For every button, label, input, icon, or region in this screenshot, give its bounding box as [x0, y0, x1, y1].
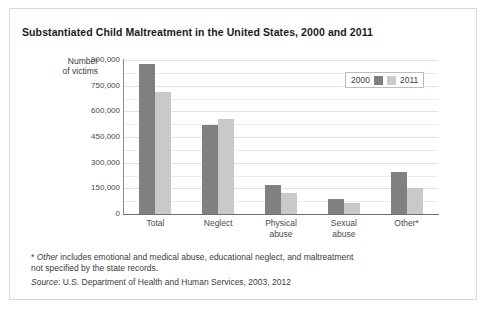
y-tick-label: 150,000 — [64, 183, 120, 192]
bar — [391, 172, 407, 214]
x-tick-label-line1: Physical — [251, 218, 311, 229]
x-tick-label: Sexualabuse — [314, 218, 374, 239]
gridline-major — [124, 60, 438, 61]
legend-swatch-2000 — [374, 76, 383, 85]
chart-legend: 2000 2011 — [345, 72, 424, 88]
x-tick-label: Neglect — [188, 218, 248, 229]
bar — [155, 92, 171, 214]
bar — [265, 185, 281, 214]
legend-label-2000: 2000 — [351, 75, 370, 85]
x-tick-label-line1: Total — [125, 218, 185, 229]
source-line: Source: U.S. Department of Health and Hu… — [31, 277, 291, 287]
footnote-marker: * — [31, 252, 34, 262]
footnote-italic-word: Other — [37, 252, 58, 262]
x-tick-label-line1: Neglect — [188, 218, 248, 229]
legend-label-2011: 2011 — [400, 75, 418, 85]
bar — [218, 119, 234, 214]
footnote: * Other includes emotional and medical a… — [31, 252, 361, 274]
x-tick-label: Physicalabuse — [251, 218, 311, 239]
bar — [139, 64, 155, 214]
y-tick-label: 900,000 — [64, 55, 120, 64]
source-text: : U.S. Department of Health and Human Se… — [58, 277, 291, 287]
y-tick-label: 600,000 — [64, 106, 120, 115]
bar — [328, 199, 344, 214]
y-tick-label: 750,000 — [64, 81, 120, 90]
x-axis-line — [123, 214, 439, 215]
x-tick-label-line2: abuse — [314, 229, 374, 240]
legend-swatch-2011 — [387, 76, 396, 85]
bar — [281, 193, 297, 214]
source-label: Source — [31, 277, 58, 287]
y-axis-title-line2: of victims — [36, 66, 98, 76]
bar — [407, 188, 423, 214]
bar — [344, 203, 360, 214]
chart-figure: Substantiated Child Maltreatment in the … — [0, 0, 495, 318]
x-tick-label: Other* — [377, 218, 437, 229]
page-title: Substantiated Child Maltreatment in the … — [22, 26, 373, 38]
footnote-text: includes emotional and medical abuse, ed… — [31, 252, 353, 273]
x-tick-label-line1: Other* — [377, 218, 437, 229]
x-tick-label-line1: Sexual — [314, 218, 374, 229]
y-tick-label: 450,000 — [64, 132, 120, 141]
x-tick-label-line2: abuse — [251, 229, 311, 240]
y-tick-label: 0 — [64, 209, 120, 218]
y-tick-label: 300,000 — [64, 158, 120, 167]
y-axis-line — [123, 59, 124, 215]
bar — [202, 125, 218, 214]
x-tick-label: Total — [125, 218, 185, 229]
